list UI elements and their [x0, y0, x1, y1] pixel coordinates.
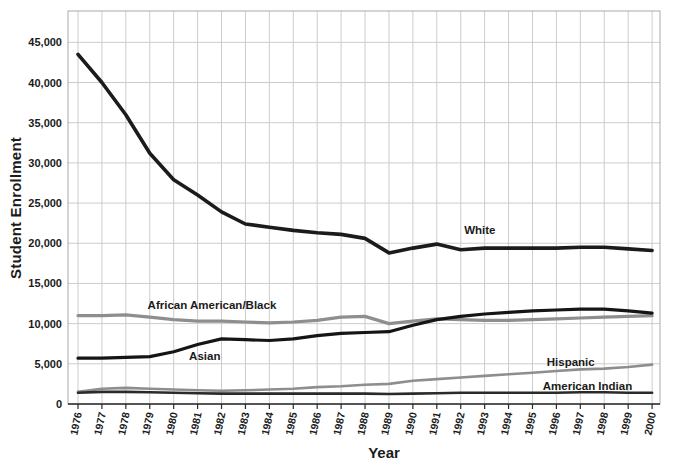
x-tick-label: 1981	[187, 411, 204, 436]
x-tick-label: 1988	[354, 411, 371, 436]
x-tick-label: 1989	[378, 411, 395, 436]
series-label-white: White	[464, 224, 495, 236]
x-tick-label: 2000	[641, 411, 658, 436]
enrollment-line-chart: 1976197719781979198019811982198319841985…	[0, 0, 678, 465]
x-tick-label: 1994	[498, 411, 515, 436]
x-tick-label: 1987	[330, 411, 347, 436]
x-tick-label: 1984	[259, 411, 276, 436]
series-label-american-indian: American Indian	[543, 380, 632, 392]
y-axis-title: Student Enrollment	[7, 137, 24, 279]
y-tick-label: 35,000	[28, 117, 62, 129]
y-tick-label: 20,000	[28, 237, 62, 249]
y-tick-label: 25,000	[28, 197, 62, 209]
chart-canvas: 1976197719781979198019811982198319841985…	[0, 0, 678, 465]
y-tick-label: 10,000	[28, 318, 62, 330]
y-tick-label: 30,000	[28, 157, 62, 169]
x-tick-label: 1980	[163, 411, 180, 436]
x-tick-label: 1997	[570, 411, 587, 436]
x-tick-label: 1993	[474, 411, 491, 436]
series-label-african-american-black: African American/Black	[148, 299, 277, 311]
y-tick-label: 40,000	[28, 77, 62, 89]
x-axis-title: Year	[368, 444, 400, 461]
y-tick-label: 0	[56, 398, 62, 410]
y-tick-label: 15,000	[28, 277, 62, 289]
series-label-hispanic: Hispanic	[547, 356, 596, 368]
x-tick-label: 1985	[283, 411, 300, 436]
x-tick-label: 1992	[450, 411, 467, 436]
plot-area	[68, 11, 660, 404]
x-tick-label: 1977	[91, 411, 108, 436]
y-tick-label: 45,000	[28, 36, 62, 48]
x-tick-label: 1998	[594, 411, 611, 436]
x-tick-label: 1999	[618, 411, 635, 436]
x-tick-label: 1978	[115, 411, 132, 436]
x-tick-label: 1986	[307, 411, 324, 436]
x-tick-label: 1982	[211, 411, 228, 436]
x-tick-label: 1983	[235, 411, 252, 436]
y-tick-label: 5,000	[34, 358, 62, 370]
x-tick-label: 1991	[426, 411, 443, 436]
x-tick-label: 1996	[546, 411, 563, 436]
series-label-asian: Asian	[189, 350, 220, 362]
x-tick-label: 1995	[522, 411, 539, 436]
x-tick-label: 1990	[402, 411, 419, 436]
x-tick-label: 1979	[139, 411, 156, 436]
x-tick-label: 1976	[67, 411, 84, 436]
